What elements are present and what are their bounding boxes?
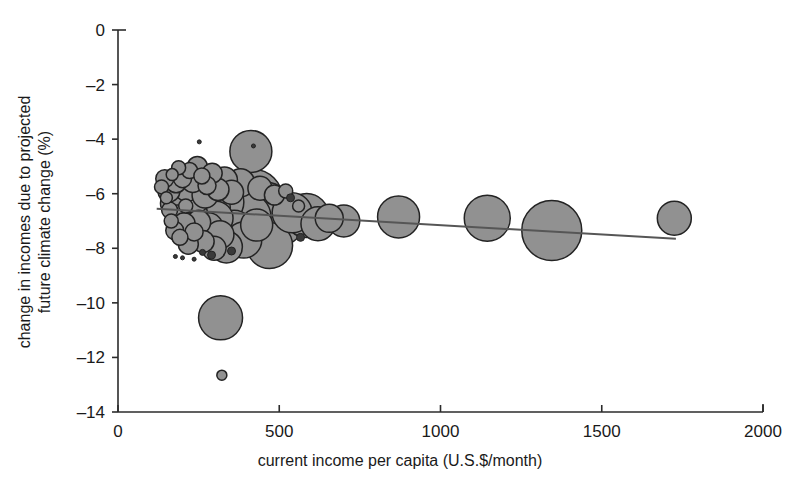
bubble-point [464, 195, 510, 241]
bubble-point [197, 140, 201, 144]
x-tick-label: 0 [113, 422, 122, 441]
bubble-point [173, 254, 177, 258]
bubble-point [172, 229, 188, 245]
bubble-chart-figure: change in incomes due to projected futur… [0, 0, 790, 477]
y-tick-label: 0 [96, 21, 105, 40]
bubble-point [194, 168, 210, 184]
x-tick-label: 1500 [583, 422, 621, 441]
y-tick-label: –4 [86, 130, 105, 149]
bubble-point [293, 200, 305, 212]
bubble-point [251, 144, 255, 148]
y-axis-title: change in incomes due to projected futur… [16, 96, 53, 349]
bubble-point [378, 196, 420, 238]
bubble-point [230, 130, 272, 172]
bubble-point [160, 192, 172, 204]
y-axis-title-line2: future climate change (%) [36, 131, 53, 313]
y-tick-label: –10 [77, 294, 105, 313]
bubble-point [657, 201, 691, 235]
y-tick-label: –2 [86, 76, 105, 95]
bubble-point [297, 233, 305, 241]
x-axis-ticks: 0500100015002000 [113, 405, 782, 441]
y-tick-label: –8 [86, 239, 105, 258]
bubble-point [199, 249, 205, 255]
bubble-points-group [155, 130, 692, 380]
bubble-point [199, 296, 243, 340]
y-tick-label: –6 [86, 185, 105, 204]
bubble-point [164, 214, 178, 228]
y-axis-title-line1: change in incomes due to projected [16, 96, 33, 349]
bubble-point [228, 247, 236, 255]
bubble-point [287, 194, 295, 202]
chart-canvas: change in incomes due to projected futur… [0, 0, 790, 477]
bubble-point [181, 256, 185, 260]
y-tick-label: –12 [77, 348, 105, 367]
x-tick-label: 500 [265, 422, 293, 441]
x-tick-label: 1000 [422, 422, 460, 441]
bubble-point [192, 257, 196, 261]
x-axis-title: current income per capita (U.S.$/month) [258, 452, 543, 469]
x-tick-label: 2000 [744, 422, 782, 441]
bubble-point [208, 251, 216, 259]
bubble-point [166, 169, 178, 181]
bubble-point [217, 370, 227, 380]
y-axis-ticks: 0–2–4–6–8–10–12–14 [77, 21, 118, 422]
y-tick-label: –14 [77, 403, 105, 422]
